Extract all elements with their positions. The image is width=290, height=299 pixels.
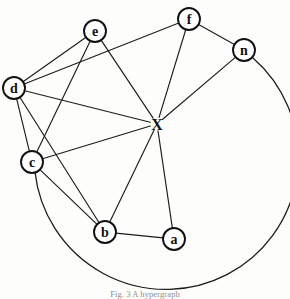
node-label-n: n: [240, 43, 248, 58]
edge-e-x: [101, 40, 153, 118]
edge-b-a: [116, 233, 163, 238]
edge-d-c: [17, 99, 30, 152]
graph-node-a[interactable]: a: [163, 228, 185, 250]
node-label-f: f: [187, 12, 192, 27]
graph-node-n[interactable]: n: [233, 39, 255, 61]
figure-container: efndXcba Fig. 3 A hypergraph: [0, 0, 290, 299]
edge-f-n: [199, 24, 235, 44]
graph-node-b[interactable]: b: [94, 221, 116, 243]
edge-b-x: [110, 130, 154, 222]
edge-f-x: [159, 30, 186, 118]
edge-d-x: [25, 91, 151, 123]
graph-node-d[interactable]: d: [3, 77, 25, 99]
edge-lines: [17, 23, 236, 238]
edge-d-e: [23, 37, 86, 81]
edge-c-x: [43, 126, 151, 159]
graph-node-c[interactable]: c: [21, 151, 43, 173]
edge-n-x: [162, 57, 235, 119]
edge-a-x: [158, 131, 172, 228]
edge-arc-c-n: [35, 58, 290, 289]
node-label-e: e: [92, 24, 98, 39]
node-layer: efndXcba: [3, 8, 255, 250]
graph-canvas: efndXcba: [0, 0, 290, 299]
node-label-c: c: [29, 155, 35, 170]
figure-caption: Fig. 3 A hypergraph: [0, 290, 290, 299]
edge-e-c: [37, 41, 90, 152]
node-label-d: d: [10, 81, 18, 96]
node-label-x: X: [151, 116, 163, 133]
graph-node-f[interactable]: f: [178, 8, 200, 30]
graph-node-x[interactable]: X: [151, 116, 163, 133]
node-label-b: b: [101, 225, 109, 240]
graph-node-e[interactable]: e: [84, 20, 106, 42]
edge-layer: [17, 23, 290, 289]
node-label-a: a: [171, 232, 178, 247]
